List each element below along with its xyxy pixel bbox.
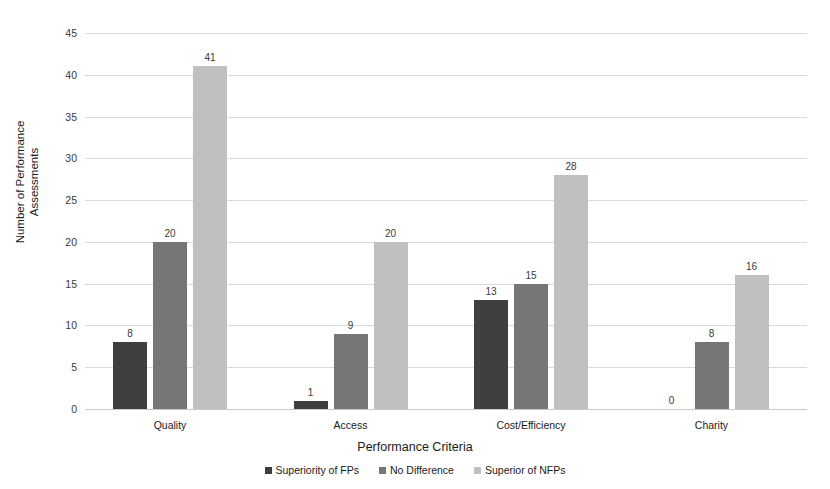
y-axis-title-line-2: Assessments xyxy=(28,148,40,216)
plot-area: 8204119201315280816 xyxy=(85,33,807,409)
legend-item[interactable]: Superiority of FPs xyxy=(265,464,359,476)
legend-swatch-icon xyxy=(379,467,386,474)
bar-value-label: 20 xyxy=(153,228,187,239)
x-axis-category-label: Quality xyxy=(100,419,240,431)
y-axis-tick-label: 25 xyxy=(53,195,77,205)
legend-item[interactable]: No Difference xyxy=(379,464,454,476)
y-axis-tick-label: 45 xyxy=(53,28,77,38)
y-axis-title-line-1: Number of Performance xyxy=(14,121,26,244)
bar-value-label: 0 xyxy=(655,395,689,406)
bar[interactable] xyxy=(153,242,187,409)
bar-value-label: 28 xyxy=(554,161,588,172)
x-axis-title: Performance Criteria xyxy=(0,440,830,454)
y-axis-tick-label: 20 xyxy=(53,237,77,247)
bar[interactable] xyxy=(474,300,508,409)
gridline xyxy=(85,33,807,34)
bar[interactable] xyxy=(113,342,147,409)
y-axis-tick-labels: 454035302520151050 xyxy=(53,33,77,409)
bar[interactable] xyxy=(514,284,548,409)
legend-label: Superior of NFPs xyxy=(485,464,566,476)
bar-value-label: 8 xyxy=(695,328,729,339)
legend-swatch-icon xyxy=(265,467,272,474)
legend-swatch-icon xyxy=(474,467,481,474)
bar-value-label: 1 xyxy=(294,387,328,398)
bar-value-label: 15 xyxy=(514,270,548,281)
bar[interactable] xyxy=(554,175,588,409)
bar[interactable] xyxy=(695,342,729,409)
legend-label: No Difference xyxy=(390,464,454,476)
x-axis-category-label: Cost/Efficiency xyxy=(461,419,601,431)
gridline xyxy=(85,409,807,410)
bar[interactable] xyxy=(294,401,328,409)
bar[interactable] xyxy=(735,275,769,409)
legend-label: Superiority of FPs xyxy=(276,464,359,476)
chart-title xyxy=(0,0,830,3)
x-axis-category-label: Access xyxy=(281,419,421,431)
legend: Superiority of FPsNo DifferenceSuperior … xyxy=(0,464,830,476)
bar-chart: 454035302520151050 Number of Performance… xyxy=(0,0,830,489)
y-axis-tick-label: 40 xyxy=(53,70,77,80)
bar[interactable] xyxy=(374,242,408,409)
y-axis-tick-label: 0 xyxy=(53,404,77,414)
y-axis-tick-label: 35 xyxy=(53,112,77,122)
bar-value-label: 9 xyxy=(334,320,368,331)
y-axis-title: Number of Performance Assessments xyxy=(13,82,41,282)
bar-value-label: 13 xyxy=(474,286,508,297)
bar[interactable] xyxy=(193,66,227,409)
bar-value-label: 16 xyxy=(735,261,769,272)
y-axis-tick-label: 10 xyxy=(53,320,77,330)
y-axis-tick-label: 15 xyxy=(53,279,77,289)
y-axis-tick-label: 30 xyxy=(53,153,77,163)
legend-item[interactable]: Superior of NFPs xyxy=(474,464,566,476)
x-axis-category-label: Charity xyxy=(642,419,782,431)
y-axis-tick-label: 5 xyxy=(53,362,77,372)
bar-value-label: 20 xyxy=(374,228,408,239)
bar[interactable] xyxy=(334,334,368,409)
bar-value-label: 8 xyxy=(113,328,147,339)
bar-value-label: 41 xyxy=(193,52,227,63)
